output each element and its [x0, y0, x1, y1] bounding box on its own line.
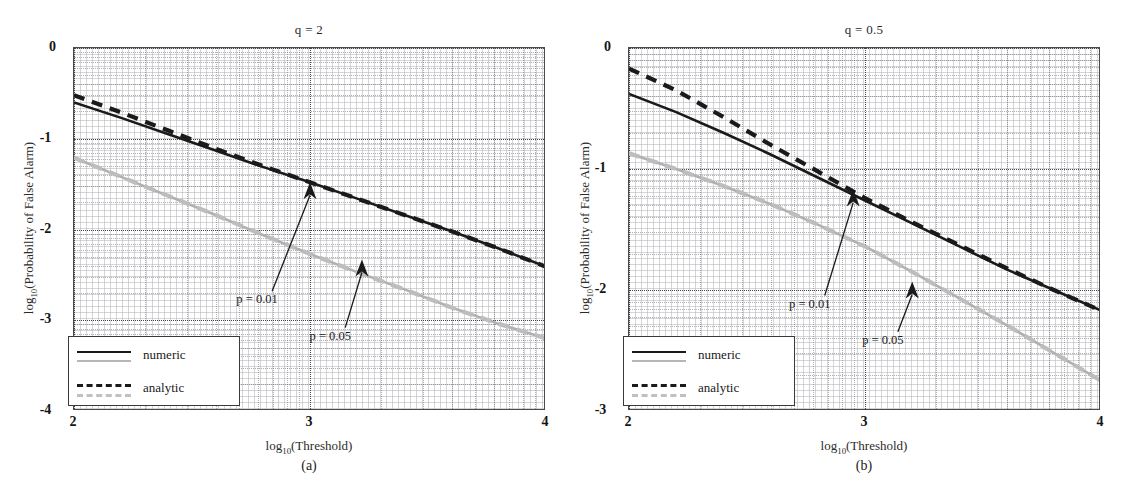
annotation-label-p-005: p = 0.05: [310, 328, 351, 343]
panel-b-legend-row-numeric: numeric: [624, 340, 794, 370]
legend-line-numeric-gray: [77, 360, 131, 362]
ytick-label: 0: [49, 39, 61, 55]
ytick-label: 0: [604, 39, 616, 55]
panel-b-ylabel: log10(Probability of False Alarm): [577, 142, 595, 314]
figure-root: q = 2 0-1-2-3-4 234 log10(Probability of…: [0, 0, 1137, 485]
panel-a-subcaption: (a): [301, 458, 317, 474]
panel-b: q = 0.5 0-1-2-3 234 log10(Probability of…: [568, 0, 1136, 485]
annotation-arrow-line: [898, 295, 912, 332]
panel-a-title: q = 2: [73, 22, 545, 38]
panel-a-legend-label-analytic: analytic: [143, 380, 184, 396]
ytick-label: -4: [40, 402, 57, 418]
ytick-label: -2: [595, 281, 612, 297]
legend-line-numeric-gray: [632, 360, 686, 362]
panel-b-xlabel-text: log10(Threshold): [821, 438, 908, 453]
series-analytic-p-0-01: [629, 69, 1100, 311]
panel-a-legend-row-analytic: analytic: [69, 373, 239, 403]
panel-b-legend-swatch-numeric: [632, 340, 686, 370]
panel-a-xlabel-text: log10(Threshold): [266, 438, 353, 453]
xtick-label: 2: [625, 414, 632, 430]
ytick-label: -3: [40, 311, 57, 327]
annotation-label-p-001: p = 0.01: [789, 296, 830, 311]
annotation-arrow-line: [345, 272, 362, 327]
legend-line-analytic-black: [632, 384, 686, 387]
annotation-label-p-001: p = 0.01: [236, 292, 277, 307]
panel-a-xlabel: log10(Threshold): [266, 438, 353, 456]
xtick-label: 4: [542, 414, 549, 430]
panel-b-legend[interactable]: numeric analytic: [623, 336, 795, 406]
panel-a-ylabel-text: log10(Probability of False Alarm): [21, 142, 36, 314]
ytick-label: -1: [595, 160, 612, 176]
ytick-label: -1: [40, 130, 57, 146]
series-numeric-p-0-01: [629, 94, 1100, 311]
xtick-label: 4: [1097, 414, 1104, 430]
legend-line-numeric-black: [632, 351, 686, 353]
panel-a-legend-row-numeric: numeric: [69, 340, 239, 370]
panel-b-title: q = 0.5: [628, 22, 1100, 38]
series-analytic-p-0-01: [74, 95, 545, 267]
legend-line-numeric-black: [77, 351, 131, 353]
xtick-label: 3: [306, 414, 313, 430]
panel-a-ylabel: log10(Probability of False Alarm): [21, 142, 39, 314]
panel-a-legend-swatch-analytic: [77, 373, 131, 403]
panel-b-subcaption: (b): [856, 458, 872, 474]
ytick-label: -2: [40, 221, 57, 237]
annotation-arrow-line: [272, 195, 310, 291]
legend-line-analytic-gray: [77, 394, 131, 397]
legend-line-analytic-gray: [632, 394, 686, 397]
panel-b-xlabel: log10(Threshold): [821, 438, 908, 456]
panel-a-legend[interactable]: numeric analytic: [68, 336, 240, 406]
legend-line-analytic-black: [77, 384, 131, 387]
annotation-label-p-005: p = 0.05: [862, 332, 903, 347]
xtick-label: 3: [861, 414, 868, 430]
xtick-label: 2: [70, 414, 77, 430]
panel-a-legend-label-numeric: numeric: [143, 347, 186, 363]
annotation-arrow-line: [825, 203, 853, 296]
panel-b-ylabel-text: log10(Probability of False Alarm): [577, 142, 592, 314]
panel-b-legend-row-analytic: analytic: [624, 373, 794, 403]
panel-b-legend-label-numeric: numeric: [698, 347, 741, 363]
panel-b-legend-swatch-analytic: [632, 373, 686, 403]
panel-b-legend-label-analytic: analytic: [698, 380, 739, 396]
panel-a: q = 2 0-1-2-3-4 234 log10(Probability of…: [0, 0, 568, 485]
panel-a-legend-swatch-numeric: [77, 340, 131, 370]
ytick-label: -3: [595, 402, 612, 418]
